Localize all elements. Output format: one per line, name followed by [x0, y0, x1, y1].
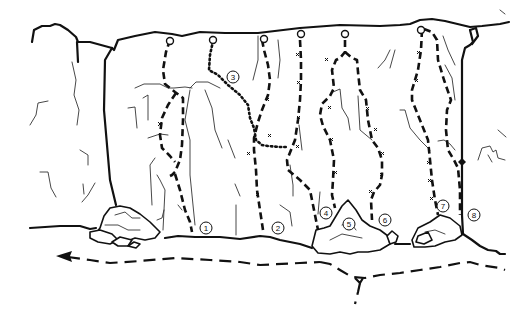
junction-branch [355, 278, 363, 283]
route-label-6: 6 [379, 214, 391, 226]
anchor-icon [342, 31, 349, 38]
route-label-8: 8 [468, 209, 480, 221]
route-label-1: 1 [200, 222, 212, 234]
climbing-topo-diagram: 1 2 3 4 5 6 7 8 [0, 0, 517, 323]
cliff-outline [32, 19, 509, 234]
route-3 [209, 41, 288, 147]
svg-text:6: 6 [383, 216, 388, 225]
svg-text:1: 1 [204, 224, 209, 233]
route-label-4: 4 [320, 207, 332, 219]
route-7 [412, 30, 438, 215]
routes [160, 29, 466, 232]
route-label-3: 3 [227, 71, 239, 83]
bolts [158, 51, 433, 200]
svg-text:8: 8 [472, 211, 477, 220]
approach-path [56, 251, 505, 304]
route-5 [320, 40, 345, 208]
route-1-variant [160, 93, 176, 162]
anchor-icon [298, 31, 305, 38]
anchor-icon [167, 38, 174, 45]
anchor-icon [418, 27, 425, 34]
route-8 [424, 29, 460, 215]
svg-text:7: 7 [441, 202, 446, 211]
anchor-icon [261, 36, 268, 43]
svg-text:5: 5 [347, 220, 352, 229]
rock-cracks [30, 10, 506, 235]
belay-diamond [458, 158, 466, 166]
route-4 [287, 40, 318, 230]
route-label-5: 5 [343, 218, 355, 230]
anchor-icon [210, 37, 217, 44]
route-label-2: 2 [272, 222, 284, 234]
svg-text:2: 2 [276, 224, 281, 233]
left-arrow-icon [56, 251, 72, 262]
svg-text:4: 4 [324, 209, 329, 218]
svg-text:3: 3 [231, 73, 236, 82]
route-label-7: 7 [437, 200, 449, 212]
